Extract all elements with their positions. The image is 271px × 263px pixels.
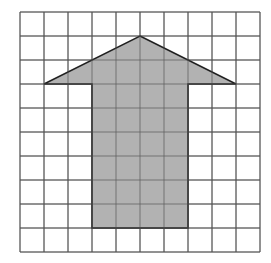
grid-figure <box>0 0 271 263</box>
grid-overlay <box>20 12 260 252</box>
